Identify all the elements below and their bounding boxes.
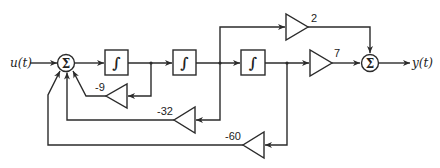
gain-label: -60 xyxy=(225,130,241,142)
gain-2: 2 xyxy=(286,12,317,40)
gain-minus-9: -9 xyxy=(95,81,127,108)
integrator-1: ∫ xyxy=(105,50,128,75)
integrator-2: ∫ xyxy=(173,50,196,75)
integrator-3: ∫ xyxy=(241,50,265,75)
gain-label: -9 xyxy=(95,81,105,93)
block-diagram: u(t) Σ ∫ ∫ ∫ 7 2 Σ xyxy=(0,0,440,168)
summing-junction-2: Σ xyxy=(362,55,379,72)
wire xyxy=(128,63,151,96)
integral-icon: ∫ xyxy=(112,54,121,72)
gain-minus-60: -60 xyxy=(225,130,264,158)
gain-label: 7 xyxy=(334,47,340,59)
gain-label: -32 xyxy=(157,105,173,117)
wire xyxy=(196,63,220,120)
sigma-icon: Σ xyxy=(62,57,70,71)
output-label: y(t) xyxy=(411,56,433,70)
sigma-icon: Σ xyxy=(366,57,374,71)
gain-7: 7 xyxy=(310,47,340,76)
gain-label: 2 xyxy=(311,12,317,24)
input-label: u(t) xyxy=(10,56,32,70)
gain-minus-32: -32 xyxy=(157,105,195,133)
wire xyxy=(48,71,243,145)
wire xyxy=(265,63,287,145)
summing-junction-1: Σ xyxy=(58,55,75,72)
integral-icon: ∫ xyxy=(249,54,258,72)
integral-icon: ∫ xyxy=(180,54,189,72)
